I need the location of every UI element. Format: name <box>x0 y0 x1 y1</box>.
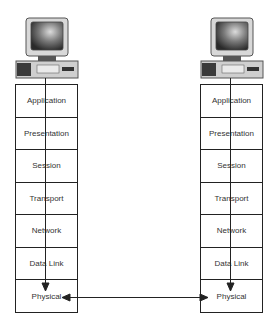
arrows-overlay <box>0 0 275 327</box>
arrowhead-physical-left <box>62 294 70 301</box>
arrowhead-left-down <box>42 283 49 291</box>
arrowhead-physical-right <box>200 294 208 301</box>
arrowhead-right-down <box>227 283 234 291</box>
